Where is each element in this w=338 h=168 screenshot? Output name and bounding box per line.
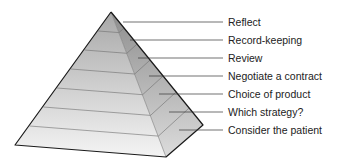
level-label-which-strategy: Which strategy?	[228, 106, 303, 118]
level-label-consider-patient: Consider the patient	[228, 124, 322, 136]
level-label-review: Review	[228, 52, 262, 64]
pyramid-diagram	[0, 0, 338, 168]
level-label-negotiate-contract: Negotiate a contract	[228, 70, 322, 82]
level-label-record-keeping: Record-keeping	[228, 34, 302, 46]
level-label-choice-of-product: Choice of product	[228, 88, 310, 100]
level-label-reflect: Reflect	[228, 16, 261, 28]
